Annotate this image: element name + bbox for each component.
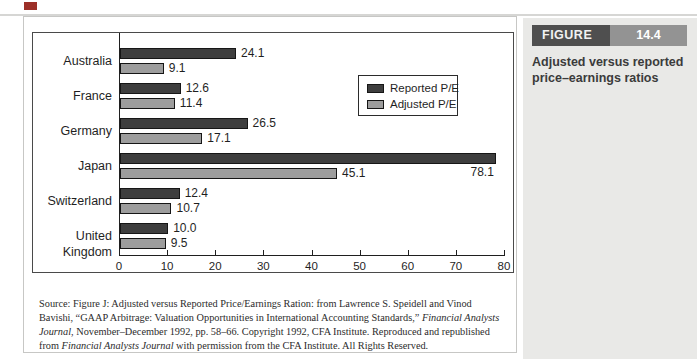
x-axis-tick [167,250,168,255]
source-note: Source: Figure J: Adjusted versus Report… [39,297,505,352]
figure-number-label: 14.4 [610,25,687,46]
legend-label: Adjusted P/E [390,98,456,110]
chart-legend: Reported P/EAdjusted P/E [358,75,458,116]
figure-caption: Adjusted versus reported price–earnings … [532,54,692,86]
value-label: 12.4 [185,187,208,200]
figure-word-label: FIGURE [532,25,610,46]
x-axis-tick-label: 0 [116,260,122,272]
value-label: 10.0 [173,222,196,235]
x-axis-tick-label: 10 [161,260,174,272]
legend-swatch-icon [367,100,384,109]
bar [120,133,202,144]
x-axis-tick [263,250,264,255]
x-axis-tick-label: 50 [353,260,366,272]
bar [120,48,236,59]
x-axis-tick-label: 30 [257,260,270,272]
value-label: 26.5 [253,117,276,130]
value-label: 24.1 [241,47,264,60]
value-label: 78.1 [471,166,494,179]
category-label: United Kingdom [33,228,112,244]
chart: 01020304050607080Australia24.19.1France1… [32,32,514,273]
value-label: 45.1 [342,167,365,180]
x-axis-tick-label: 40 [305,260,318,272]
category-label: Germany [33,123,112,139]
value-label: 9.1 [169,62,186,75]
x-axis-tick [119,250,120,255]
bar [120,83,181,94]
bar [120,168,337,179]
bar [120,188,180,199]
legend-item: Adjusted P/E [367,98,457,110]
bar [120,118,248,129]
bar [120,223,168,234]
category-label: Australia [33,53,112,69]
value-label: 11.4 [180,97,202,110]
red-accent-mark [24,2,37,10]
bar [120,203,171,214]
value-label: 10.7 [176,202,199,215]
x-axis-tick [360,250,361,255]
x-axis-tick-label: 80 [498,260,511,272]
legend-item: Reported P/E [367,82,457,94]
category-label: Japan [33,158,112,174]
plot-area: 01020304050607080Australia24.19.1France1… [33,33,513,272]
category-label: France [33,88,112,104]
x-axis-tick-label: 20 [209,260,222,272]
x-axis-tick-label: 70 [449,260,462,272]
bar [120,63,164,74]
category-label: Switzerland [33,193,112,209]
x-axis-line [119,255,505,256]
bar [120,238,166,249]
value-label: 17.1 [207,132,230,145]
x-axis-tick [312,250,313,255]
legend-label: Reported P/E [390,82,459,94]
value-label: 12.6 [186,82,209,95]
x-axis-tick [408,250,409,255]
margin-panel: FIGURE 14.4 Adjusted versus reported pri… [523,18,697,359]
x-axis-tick [456,250,457,255]
bar [120,98,175,109]
x-axis-tick-label: 60 [401,260,414,272]
value-label: 9.5 [171,237,188,250]
legend-swatch-icon [367,84,384,93]
bar [120,153,496,164]
x-axis-tick [504,250,505,255]
figure-header: FIGURE 14.4 [532,25,687,46]
x-axis-tick [215,250,216,255]
figure-panel: 01020304050607080Australia24.19.1France1… [23,16,517,353]
